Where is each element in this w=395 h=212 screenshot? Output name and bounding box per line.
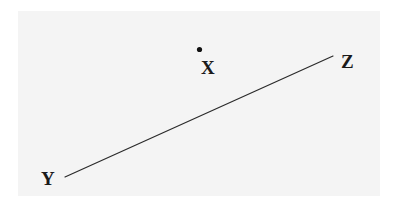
- point-x-marker: [197, 47, 202, 52]
- figure-root: X Y Z: [0, 0, 395, 212]
- endpoint-y-label: Y: [41, 168, 55, 189]
- point-x-label: X: [201, 57, 215, 78]
- diagram-canvas: X Y Z: [0, 0, 395, 212]
- endpoint-z-label: Z: [341, 51, 354, 72]
- line-segment-yz: [65, 56, 333, 177]
